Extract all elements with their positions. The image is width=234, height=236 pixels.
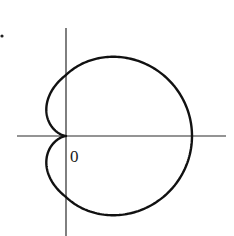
background	[0, 0, 234, 236]
origin-label: 0	[70, 147, 79, 166]
cardioid-diagram: 0	[0, 0, 234, 236]
stray-dot	[0, 34, 3, 37]
